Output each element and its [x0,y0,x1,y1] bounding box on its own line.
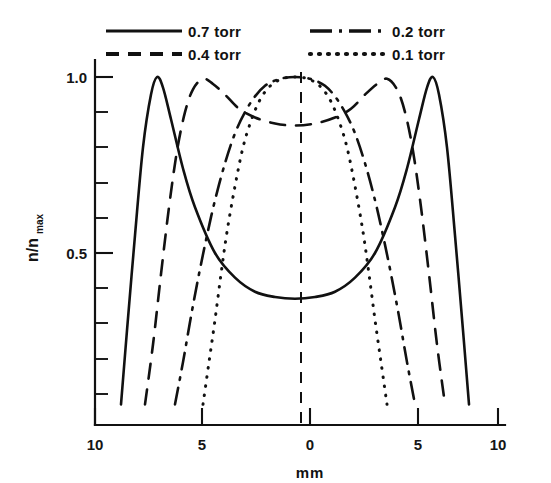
chart-svg: 0.7 torr 0.4 torr 0.2 torr 0.1 torr [0,0,551,483]
x-tick-labels: 10 5 0 5 10 [87,436,507,453]
x-tick-label-0: 0 [306,436,314,453]
x-tick-label-10: 10 [490,436,507,453]
y-axis-title-sub: max [34,214,45,234]
y-tick-labels: 1.0 0.5 [66,69,87,262]
curve-0.4-torr [145,79,445,405]
legend-item-1: 0.4 torr [106,46,241,63]
legend: 0.7 torr 0.4 torr 0.2 torr 0.1 torr [106,23,445,63]
legend-label-1: 0.4 torr [188,46,241,63]
x-axis-ticks [95,408,498,425]
curves [121,77,469,405]
x-tick-label--10: 10 [87,436,104,453]
y-axis-ticks [95,77,113,394]
legend-label-3: 0.1 torr [392,46,445,63]
y-axis-title-main: n/n [24,238,41,262]
y-tick-label-0.5: 0.5 [66,245,87,262]
x-axis-title: mm [296,464,325,481]
x-tick-label--5: 5 [198,436,206,453]
figure-container: 0.7 torr 0.4 torr 0.2 torr 0.1 torr [0,0,551,483]
x-tick-label-5: 5 [414,436,422,453]
y-tick-label-1.0: 1.0 [66,69,87,86]
legend-item-2: 0.2 torr [310,23,445,40]
legend-label-2: 0.2 torr [392,23,445,40]
legend-item-0: 0.7 torr [106,23,241,40]
y-axis-title: n/n max [24,214,45,262]
legend-item-3: 0.1 torr [310,46,445,63]
legend-label-0: 0.7 torr [188,23,241,40]
